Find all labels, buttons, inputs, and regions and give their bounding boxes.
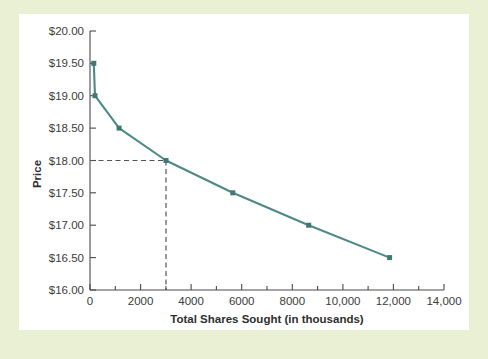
x-axis-minor-ticks [115,286,418,290]
data-point-marker [230,190,235,195]
x-tick-label: 4000 [178,295,204,307]
data-point-marker [91,61,96,66]
data-point-marker [306,223,311,228]
figure-frame: $20.00 $19.50 $19.00 $18.50 $18.00 $17.5… [0,0,488,359]
price-vs-shares-line-chart: $20.00 $19.50 $19.00 $18.50 $18.00 $17.5… [19,14,469,330]
x-axis-title: Total Shares Sought (in thousands) [170,313,364,325]
y-tick-label: $19.50 [49,57,84,69]
y-tick-label: $19.00 [49,90,84,102]
x-tick-label: 6000 [229,295,255,307]
x-axis-tick-labels: 0 2000 4000 6000 8000 10,000 12,000 14,0… [87,295,462,307]
y-tick-label: $18.00 [49,155,84,167]
y-tick-label: $17.00 [49,219,84,231]
chart-panel: $20.00 $19.50 $19.00 $18.50 $18.00 $17.5… [19,14,469,330]
y-tick-label: $20.00 [49,25,84,37]
y-axis-tick-labels: $20.00 $19.50 $19.00 $18.50 $18.00 $17.5… [49,25,84,296]
y-tick-label: $17.50 [49,187,84,199]
x-tick-label: 14,000 [426,295,461,307]
x-tick-label: 2000 [128,295,154,307]
x-tick-label: 12,000 [376,295,411,307]
x-tick-label: 0 [87,295,93,307]
reference-lines [90,161,166,291]
x-tick-label: 8000 [280,295,306,307]
y-axis-title: Price [31,160,43,188]
x-tick-label: 10,000 [325,295,360,307]
y-tick-label: $18.50 [49,122,84,134]
data-point-marker [93,93,98,98]
data-point-marker [164,158,169,163]
y-tick-label: $16.00 [49,284,84,296]
series-line-price [94,63,390,257]
y-tick-label: $16.50 [49,252,84,264]
data-point-marker [117,126,122,131]
data-point-marker [387,255,392,260]
